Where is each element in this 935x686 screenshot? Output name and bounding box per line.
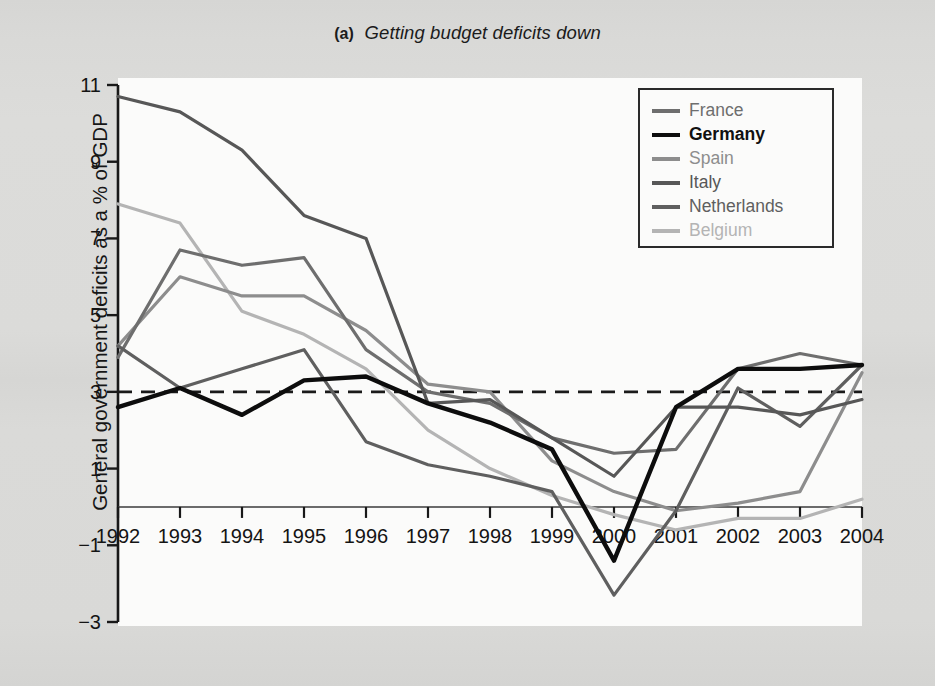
y-tick-label: 9	[90, 151, 101, 173]
x-tick-label: 2003	[778, 525, 823, 547]
legend-label-italy: Italy	[689, 174, 721, 192]
y-tick-label: 1	[90, 458, 101, 480]
legend-label-germany: Germany	[689, 126, 765, 144]
y-tick-label: 5	[90, 304, 101, 326]
y-tick-label: 3	[90, 381, 101, 403]
x-tick-label: 1992	[96, 525, 141, 547]
legend-item-france: France	[652, 99, 832, 123]
legend-label-netherlands: Netherlands	[689, 198, 783, 216]
x-tick-label: 2002	[716, 525, 761, 547]
legend-swatch-france-icon	[652, 109, 680, 112]
legend-swatch-italy-icon	[652, 181, 680, 184]
x-tick-label: 2004	[840, 525, 885, 547]
legend-swatch-germany-icon	[652, 133, 680, 137]
legend-item-spain: Spain	[652, 147, 832, 171]
x-tick-label: 1994	[220, 525, 265, 547]
legend-label-spain: Spain	[689, 150, 734, 168]
legend-item-germany: Germany	[652, 123, 832, 147]
legend-item-netherlands: Netherlands	[652, 195, 832, 219]
series-line-netherlands	[118, 346, 862, 595]
y-tick-label: 7	[90, 227, 101, 249]
chart-figure: (a) Getting budget deficits down General…	[0, 0, 935, 686]
x-tick-label: 1993	[158, 525, 203, 547]
x-tick-label: 1995	[282, 525, 327, 547]
legend-label-france: France	[689, 102, 743, 120]
y-tick-label: 11	[80, 74, 101, 96]
legend-item-belgium: Belgium	[652, 219, 832, 243]
legend-swatch-belgium-icon	[652, 229, 680, 232]
chart-legend: FranceGermanySpainItalyNetherlandsBelgiu…	[638, 88, 834, 248]
legend-item-italy: Italy	[652, 171, 832, 195]
x-tick-label: 1997	[406, 525, 451, 547]
legend-swatch-netherlands-icon	[652, 205, 680, 208]
legend-swatch-spain-icon	[652, 157, 680, 160]
y-tick-label: −3	[78, 611, 101, 633]
legend-label-belgium: Belgium	[689, 222, 752, 240]
x-tick-label: 1999	[530, 525, 575, 547]
x-tick-label: 1996	[344, 525, 389, 547]
x-tick-label: 1998	[468, 525, 513, 547]
